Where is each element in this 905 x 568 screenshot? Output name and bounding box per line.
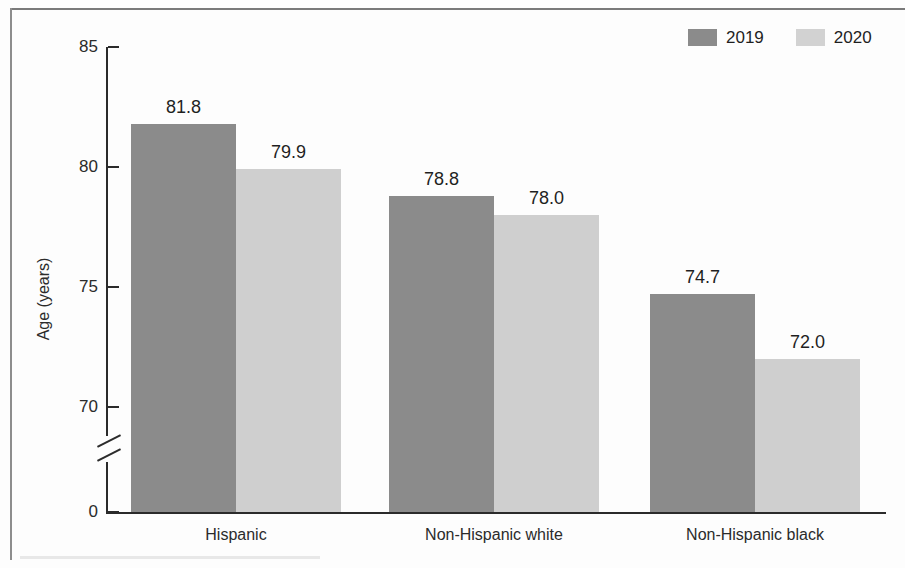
bar-hispanic-2020 (236, 169, 341, 512)
bar-value-label: 74.7 (650, 268, 755, 286)
y-tick-label-80: 80 (56, 158, 98, 175)
x-category-label: Non-Hispanic black (610, 526, 900, 544)
bar-value-label: 81.8 (131, 98, 236, 116)
bar-value-label: 79.9 (236, 143, 341, 161)
legend-swatch-2020 (796, 29, 825, 46)
bar-non-hispanic-black-2019 (650, 294, 755, 512)
y-tick-mark-0 (108, 511, 119, 513)
y-axis-title: Age (years) (35, 219, 53, 379)
legend-item-2019: 2019 (688, 29, 764, 46)
y-tick-label-70: 70 (56, 398, 98, 415)
bar-hispanic-2019 (131, 124, 236, 512)
y-tick-mark-75 (108, 286, 119, 288)
y-tick-mark-80 (108, 166, 119, 168)
y-tick-label-75: 75 (56, 278, 98, 295)
axis-break-icon (96, 428, 122, 468)
y-tick-mark-85 (108, 46, 119, 48)
x-axis-line (106, 512, 886, 514)
bar-value-label: 72.0 (755, 333, 860, 351)
bar-chart-plot-area: 858075700 Age (years) 81.879.978.878.074… (0, 0, 905, 568)
y-tick-mark-70 (108, 406, 119, 408)
y-tick-label-0: 0 (56, 503, 98, 520)
x-category-label: Hispanic (91, 526, 381, 544)
legend-item-2020: 2020 (796, 29, 872, 46)
x-category-label: Non-Hispanic white (349, 526, 639, 544)
legend-label-2020: 2020 (834, 29, 872, 46)
bar-value-label: 78.0 (494, 189, 599, 207)
bar-value-label: 78.8 (389, 170, 494, 188)
bar-non-hispanic-white-2019 (389, 196, 494, 512)
legend-label-2019: 2019 (726, 29, 764, 46)
chart-legend: 20192020 (688, 26, 894, 48)
scan-artifact (20, 556, 320, 559)
y-tick-label-85: 85 (56, 38, 98, 55)
figure-root: 858075700 Age (years) 81.879.978.878.074… (0, 0, 905, 568)
legend-swatch-2019 (688, 29, 717, 46)
bar-non-hispanic-black-2020 (755, 359, 860, 512)
bar-non-hispanic-white-2020 (494, 215, 599, 512)
